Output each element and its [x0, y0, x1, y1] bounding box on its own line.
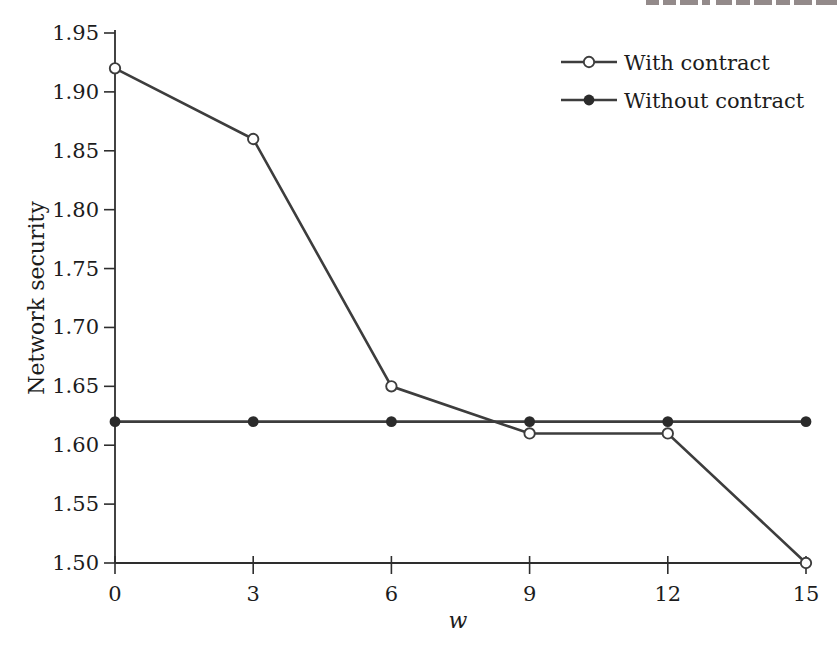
legend-label-without-contract: Without contract — [624, 89, 805, 113]
legend: With contract Without contract — [561, 51, 805, 113]
x-tick-label: 9 — [523, 582, 536, 606]
legend-label-with-contract: With contract — [624, 51, 770, 75]
series-line-with-contract — [115, 68, 806, 563]
data-point-without-contract — [386, 416, 397, 427]
legend-entry-with-contract: With contract — [561, 51, 770, 75]
cropped-header-text — [646, 0, 837, 5]
y-tick-label: 1.50 — [52, 551, 99, 575]
y-tick-label: 1.60 — [52, 433, 99, 457]
y-tick-label: 1.80 — [52, 198, 99, 222]
data-point-with-contract — [110, 63, 120, 73]
y-axis-label: Network security — [24, 201, 49, 395]
data-point-with-contract — [801, 558, 811, 568]
y-tick-label: 1.75 — [52, 257, 99, 281]
series-lines — [115, 68, 806, 563]
series-markers — [110, 63, 812, 568]
y-ticks: 1.501.551.601.651.701.751.801.851.901.95 — [52, 21, 115, 575]
x-tick-label: 6 — [385, 582, 398, 606]
data-point-with-contract — [524, 428, 534, 438]
legend-entry-without-contract: Without contract — [561, 89, 805, 113]
data-point-without-contract — [801, 416, 812, 427]
y-tick-label: 1.65 — [52, 374, 99, 398]
figure: 1.501.551.601.651.701.751.801.851.901.95… — [0, 0, 837, 653]
y-tick-label: 1.90 — [52, 80, 99, 104]
y-tick-label: 1.70 — [52, 315, 99, 339]
line-chart: 1.501.551.601.651.701.751.801.851.901.95… — [0, 0, 837, 653]
open-circle-marker-icon — [584, 57, 594, 67]
y-tick-label: 1.85 — [52, 139, 99, 163]
x-axis-label: w — [449, 608, 468, 633]
data-point-without-contract — [248, 416, 259, 427]
y-tick-label: 1.95 — [52, 21, 99, 45]
filled-circle-marker-icon — [584, 95, 595, 106]
data-point-with-contract — [386, 381, 396, 391]
data-point-without-contract — [524, 416, 535, 427]
y-tick-label: 1.55 — [52, 492, 99, 516]
x-tick-label: 12 — [654, 582, 681, 606]
data-point-without-contract — [662, 416, 673, 427]
data-point-with-contract — [248, 134, 258, 144]
x-tick-label: 3 — [247, 582, 260, 606]
data-point-with-contract — [663, 428, 673, 438]
x-tick-label: 0 — [108, 582, 121, 606]
data-point-without-contract — [110, 416, 121, 427]
x-tick-label: 15 — [793, 582, 820, 606]
